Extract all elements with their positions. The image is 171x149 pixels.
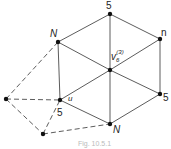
label-center: v6(3) <box>111 49 124 63</box>
figure-caption: Fig. 10.5.1 <box>78 140 111 148</box>
vertex-farleft <box>4 97 8 101</box>
edge-center-right5 <box>110 70 160 94</box>
label-n: n <box>161 27 167 38</box>
vertex-right5 <box>158 92 162 96</box>
vertex-top5 <box>108 12 112 16</box>
edge-u-Nbottom <box>60 100 110 124</box>
vertex-Nupper <box>56 40 60 44</box>
vertex-labels: 5nv6(3)Nu55N <box>50 0 169 135</box>
edge-Nupper-u <box>58 42 60 100</box>
vertices <box>4 12 162 136</box>
vertex-bottomleft <box>41 132 45 136</box>
edge-top5-n <box>110 14 160 39</box>
label-top5: 5 <box>106 0 112 11</box>
vertex-u <box>58 98 62 102</box>
vertex-Nbottom <box>108 122 112 126</box>
label2-u: 5 <box>57 107 63 118</box>
label-right5: 5 <box>163 92 169 103</box>
dashed-edge-farleft-Nupper <box>6 42 58 99</box>
label-Nbottom: N <box>113 124 121 135</box>
label-u: u <box>68 94 73 103</box>
dashed-edge-farleft-bottomleft <box>6 99 43 134</box>
vertex-center <box>108 68 112 72</box>
dashed-edges <box>6 42 110 134</box>
edge-top5-Nupper <box>58 14 110 42</box>
label-Nupper: N <box>50 28 58 39</box>
edge-right5-Nbottom <box>110 94 160 124</box>
graph-diagram: 5nv6(3)Nu55N Fig. 10.5.1 <box>0 0 171 149</box>
dashed-edge-farleft-u <box>6 99 60 100</box>
dashed-edge-bottomleft-Nbottom <box>43 124 110 134</box>
edge-Nupper-center <box>58 42 110 70</box>
